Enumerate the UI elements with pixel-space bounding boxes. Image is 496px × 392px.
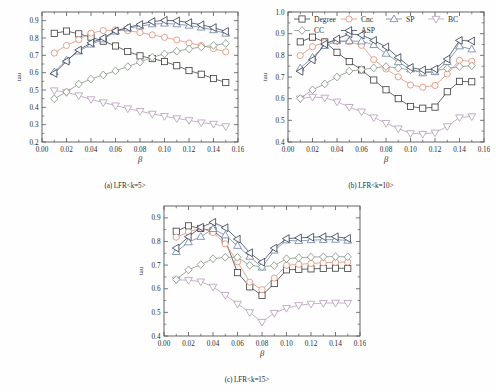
svg-text:0.4: 0.4 xyxy=(152,333,161,341)
svg-text:0.4: 0.4 xyxy=(276,139,285,147)
svg-text:0.2: 0.2 xyxy=(30,139,39,147)
panel-c-plot: 0.000.020.040.060.080.100.120.140.160.40… xyxy=(128,200,366,366)
svg-text:0.14: 0.14 xyxy=(207,146,220,154)
svg-text:0.06: 0.06 xyxy=(355,146,368,154)
svg-text:0.08: 0.08 xyxy=(134,146,147,154)
svg-text:0.00: 0.00 xyxy=(36,146,49,154)
svg-text:0.12: 0.12 xyxy=(429,146,442,154)
svg-text:Degree: Degree xyxy=(314,15,337,24)
svg-text:0.10: 0.10 xyxy=(280,340,293,348)
svg-text:0.04: 0.04 xyxy=(207,340,220,348)
svg-text:0.14: 0.14 xyxy=(329,340,342,348)
svg-text:0.10: 0.10 xyxy=(404,146,417,154)
svg-text:tau: tau xyxy=(261,72,269,81)
svg-text:0.6: 0.6 xyxy=(152,285,161,293)
svg-text:0.16: 0.16 xyxy=(478,146,490,154)
svg-text:0.10: 0.10 xyxy=(158,146,171,154)
panel-b-caption: (b) LFR<k=10> xyxy=(252,182,490,190)
svg-text:tau: tau xyxy=(137,266,145,275)
svg-text:β: β xyxy=(137,154,143,164)
panel-a-plot: 0.000.020.040.060.080.100.120.140.160.20… xyxy=(6,6,244,172)
svg-text:0.16: 0.16 xyxy=(232,146,244,154)
svg-text:0.04: 0.04 xyxy=(85,146,98,154)
svg-text:0.04: 0.04 xyxy=(331,146,344,154)
svg-text:β: β xyxy=(383,154,389,164)
svg-text:0.3: 0.3 xyxy=(30,121,39,129)
panel-b-lfr-k10: 0.000.020.040.060.080.100.120.140.160.40… xyxy=(252,6,490,196)
panel-a-caption: (a) LFR<k=5> xyxy=(6,182,244,190)
svg-text:0.06: 0.06 xyxy=(109,146,122,154)
svg-text:0.9: 0.9 xyxy=(152,214,161,222)
panel-c-lfr-k15: 0.000.020.040.060.080.100.120.140.160.40… xyxy=(128,200,366,390)
svg-text:0.5: 0.5 xyxy=(152,309,161,317)
svg-text:0.02: 0.02 xyxy=(182,340,195,348)
svg-text:0.14: 0.14 xyxy=(453,146,466,154)
panel-a-lfr-k5: 0.000.020.040.060.080.100.120.140.160.20… xyxy=(6,6,244,196)
svg-text:0.8: 0.8 xyxy=(30,35,39,43)
svg-text:SP: SP xyxy=(406,15,414,24)
svg-text:0.7: 0.7 xyxy=(152,262,161,270)
svg-text:0.08: 0.08 xyxy=(380,146,393,154)
svg-text:0.6: 0.6 xyxy=(276,95,285,103)
svg-text:0.06: 0.06 xyxy=(231,340,244,348)
svg-text:0.02: 0.02 xyxy=(306,146,319,154)
svg-text:0.9: 0.9 xyxy=(276,30,285,38)
svg-text:0.7: 0.7 xyxy=(276,74,285,82)
svg-text:0.00: 0.00 xyxy=(158,340,171,348)
svg-text:0.12: 0.12 xyxy=(305,340,318,348)
svg-text:0.12: 0.12 xyxy=(183,146,196,154)
svg-text:0.16: 0.16 xyxy=(354,340,366,348)
svg-text:tau: tau xyxy=(15,72,23,81)
svg-text:CC: CC xyxy=(314,26,324,35)
svg-text:0.5: 0.5 xyxy=(276,117,285,125)
svg-text:0.5: 0.5 xyxy=(30,87,39,95)
svg-text:0.9: 0.9 xyxy=(30,17,39,25)
svg-text:β: β xyxy=(259,348,265,358)
svg-text:0.00: 0.00 xyxy=(282,146,295,154)
svg-text:Cnc: Cnc xyxy=(361,15,374,24)
svg-text:ASP: ASP xyxy=(361,26,375,35)
panel-c-caption: (c) LFR<k=15> xyxy=(128,376,366,384)
svg-text:0.8: 0.8 xyxy=(276,52,285,60)
svg-text:0.4: 0.4 xyxy=(30,104,39,112)
svg-text:1.0: 1.0 xyxy=(276,9,285,17)
svg-text:BC: BC xyxy=(448,15,458,24)
svg-text:0.08: 0.08 xyxy=(256,340,269,348)
svg-text:0.8: 0.8 xyxy=(152,238,161,246)
panel-b-plot: 0.000.020.040.060.080.100.120.140.160.40… xyxy=(252,6,490,172)
svg-text:0.7: 0.7 xyxy=(30,52,39,60)
svg-text:0.02: 0.02 xyxy=(60,146,73,154)
svg-text:0.6: 0.6 xyxy=(30,69,39,77)
